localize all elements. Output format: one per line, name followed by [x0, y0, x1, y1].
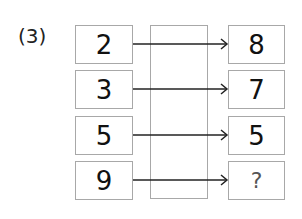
- arrow-icon: [133, 130, 227, 140]
- arrow-icon: [133, 39, 227, 49]
- arrows: [0, 0, 302, 219]
- arrow-icon: [133, 175, 227, 185]
- arrow-icon: [133, 84, 227, 94]
